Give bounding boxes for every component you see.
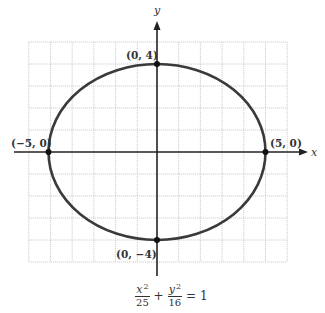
x-axis-arrow-icon	[299, 149, 308, 156]
x-axis-label: x	[311, 146, 318, 159]
ellipse-equation: x2 25 + y2 16 = 1	[0, 283, 325, 308]
point-label-left: (−5, 0)	[11, 137, 52, 149]
point-left	[46, 149, 52, 155]
point-top	[154, 61, 160, 67]
plus-sign: +	[154, 289, 164, 303]
point-right	[263, 149, 269, 155]
y-axis-label: y	[153, 4, 161, 17]
point-label-right: (5, 0)	[270, 137, 302, 149]
fraction-y-term: y2 16	[168, 283, 182, 308]
fraction-x-term: x2 25	[135, 283, 149, 308]
equation-rhs: 1	[200, 289, 208, 303]
point-label-bottom: (0, −4)	[116, 248, 157, 260]
ellipse-diagram: x y (0, 4) (−5, 0) (5, 0) (0, −4) x2 25 …	[0, 0, 325, 313]
y-axis-arrow-icon	[154, 21, 161, 30]
equals-sign: =	[186, 289, 196, 303]
point-label-top: (0, 4)	[126, 49, 158, 61]
point-bottom	[154, 237, 160, 243]
